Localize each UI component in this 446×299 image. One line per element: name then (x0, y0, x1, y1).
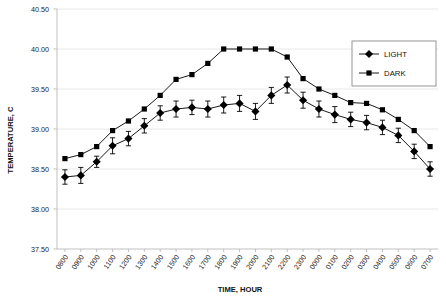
data-point-marker (126, 118, 131, 123)
data-point-marker (236, 99, 244, 107)
data-point-marker (94, 144, 99, 149)
x-tick-label: 0000 (308, 253, 325, 271)
data-point-marker (142, 106, 147, 111)
data-point-marker (78, 152, 83, 157)
data-point-marker (364, 101, 369, 106)
y-tick-label: 38.50 (31, 165, 49, 174)
x-tick-label: 2300 (292, 253, 309, 271)
x-tick-label: 0100 (323, 253, 340, 271)
series-light (61, 77, 434, 184)
data-point-marker (62, 156, 67, 161)
x-tick-label: 1100 (101, 253, 117, 271)
data-point-marker (61, 173, 69, 181)
x-axis-title: TIME, HOUR (218, 285, 263, 294)
temperature-line-chart: 40.5040.0039.5039.0038.5038.0037.50 0800… (0, 0, 446, 299)
x-tick-label: 2000 (244, 253, 261, 271)
y-axis-title: TEMPERATURE, C (6, 106, 15, 173)
x-tick-label: 1200 (117, 253, 134, 271)
data-point-marker (396, 117, 401, 122)
x-tick-label: 0300 (355, 253, 372, 271)
data-point-marker (110, 128, 115, 133)
data-point-marker (220, 101, 228, 109)
data-point-marker (204, 105, 212, 113)
y-tick-label: 39.00 (31, 125, 49, 134)
y-axis-tick-labels: 40.5040.0039.5039.0038.5038.0037.50 (31, 5, 57, 254)
x-tick-label: 0200 (339, 253, 356, 271)
data-point-marker (205, 61, 210, 66)
data-point-marker (347, 115, 355, 123)
data-point-marker (221, 46, 226, 51)
data-point-marker (315, 105, 323, 113)
legend-label: DARK (384, 69, 406, 78)
x-tick-label: 2100 (260, 253, 277, 271)
x-tick-label: 1900 (228, 253, 245, 271)
x-tick-label: 0800 (54, 253, 71, 271)
x-tick-label: 0400 (371, 253, 388, 271)
x-tick-label: 0600 (403, 253, 420, 271)
y-tick-label: 37.50 (31, 245, 49, 254)
chart-legend: LIGHTDARK (352, 41, 436, 86)
data-point-marker (173, 77, 178, 82)
data-point-marker (269, 46, 274, 51)
data-point-marker (253, 46, 258, 51)
data-point-marker (316, 86, 321, 91)
x-tick-label: 2200 (276, 253, 293, 271)
x-tick-label: 1300 (133, 253, 150, 271)
data-point-marker (300, 76, 305, 81)
x-tick-label: 1800 (212, 253, 229, 271)
legend-label: LIGHT (384, 50, 407, 59)
data-point-marker (363, 119, 371, 127)
x-tick-label: 1600 (181, 253, 198, 271)
y-tick-label: 40.00 (31, 45, 49, 54)
data-point-marker (172, 105, 180, 113)
x-tick-label: 1000 (85, 253, 102, 271)
data-point-marker (427, 144, 432, 149)
data-point-marker (158, 93, 163, 98)
chart-container: 40.5040.0039.5039.0038.5038.0037.50 0800… (0, 0, 446, 299)
x-tick-label: 1400 (149, 253, 166, 271)
data-point-marker (189, 72, 194, 77)
x-tick-label: 0700 (419, 253, 436, 271)
y-tick-label: 38.00 (31, 205, 49, 214)
data-point-marker (331, 111, 339, 119)
data-point-marker (412, 128, 417, 133)
legend-box (352, 41, 436, 86)
data-point-marker (366, 70, 371, 75)
x-tick-label: 1500 (165, 253, 182, 271)
data-point-marker (285, 54, 290, 59)
x-tick-label: 1700 (196, 253, 213, 271)
x-axis-tick-labels: 0800090010001100120013001400150016001700… (54, 249, 436, 271)
x-tick-label: 0900 (69, 253, 86, 271)
series-line (65, 85, 430, 177)
data-point-marker (332, 93, 337, 98)
x-tick-label: 0500 (387, 253, 404, 271)
y-tick-label: 40.50 (31, 5, 49, 14)
data-point-marker (237, 46, 242, 51)
y-tick-label: 39.50 (31, 85, 49, 94)
data-point-marker (348, 100, 353, 105)
data-point-marker (380, 107, 385, 112)
data-point-marker (188, 103, 196, 111)
data-point-marker (378, 123, 386, 131)
